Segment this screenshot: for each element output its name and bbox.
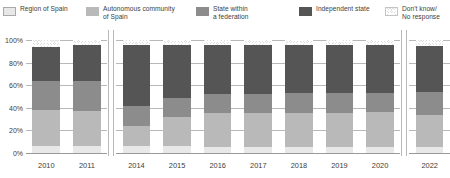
bar-segment [32,40,60,47]
legend-item-2[interactable]: State within a federation [196,5,248,21]
bar-slot-2016[interactable] [197,30,238,156]
stacked-bar[interactable] [285,40,313,153]
legend-item-label: Autonomous community of Spain [103,5,175,21]
bar-slot-2010[interactable] [26,30,67,156]
bar-segment [366,112,394,147]
bar-segment [123,106,151,126]
y-axis-tick-label: 0% [13,150,23,157]
legend-item-label: State within a federation [213,5,248,21]
legend-item-label: Region of Spain [20,5,68,13]
bar-segment [163,45,191,98]
x-axis-tick-label: 2011 [67,161,108,170]
bar-slot-2018[interactable] [279,30,320,156]
bar-segment [32,81,60,110]
bar-segment [163,98,191,117]
legend-swatch-icon [299,7,312,16]
bar-segment [204,113,232,147]
bar-segment [73,40,101,45]
bar-segment [285,147,313,153]
bar-segment [204,40,232,45]
x-axis-tick-label: 2022 [409,161,450,170]
bar-series-container [26,30,450,156]
bar-segment [73,81,101,112]
bar-segment [416,92,444,115]
stacked-bar[interactable] [326,40,354,153]
x-axis-tick-label: 2010 [26,161,67,170]
bar-segment [32,146,60,153]
bar-segment [285,93,313,113]
bar-segment [244,113,272,147]
bar-segment [326,40,354,45]
bar-slot-2014[interactable] [116,30,157,156]
legend-item-label: Don't know/ No response [402,5,440,21]
bar-slot-2015[interactable] [157,30,198,156]
stacked-bar[interactable] [73,40,101,153]
bar-slot-2019[interactable] [319,30,360,156]
bar-segment [32,110,60,146]
bar-segment [416,46,444,92]
bar-segment [163,40,191,45]
legend-item-3[interactable]: Independent state [299,5,370,16]
chart-plot-area: 0%20%40%60%80%100% 201020112014201520162… [0,30,450,178]
bar-segment [123,146,151,153]
bar-segment [416,40,444,46]
legend-swatch-icon [385,7,398,16]
bar-segment [123,126,151,146]
bar-segment [73,111,101,146]
stacked-bar[interactable] [163,40,191,153]
bar-segment [416,115,444,148]
bar-segment [285,113,313,147]
bar-segment [366,45,394,94]
x-axis-labels: 2010201120142015201620172018201920202022 [26,156,450,178]
axis-break-marker [107,30,116,156]
legend-item-label: Independent state [316,5,370,13]
bar-segment [416,147,444,153]
stacked-bar[interactable] [123,40,151,153]
y-axis-tick-label: 20% [9,127,23,134]
bar-segment [285,40,313,45]
y-axis-tick-label: 60% [9,82,23,89]
legend-item-4[interactable]: Don't know/ No response [385,5,440,21]
x-axis-tick-label: 2019 [319,161,360,170]
bar-segment [204,45,232,95]
bar-segment [244,147,272,153]
y-axis-tick-label: 80% [9,59,23,66]
bar-segment [123,40,151,45]
bar-segment [326,93,354,113]
bar-segment [32,47,60,81]
x-axis-tick-label: 2018 [279,161,320,170]
bar-segment [326,147,354,153]
chart-legend: Region of SpainAutonomous community of S… [0,0,450,30]
stacked-bar[interactable] [366,40,394,153]
bar-segment [73,45,101,81]
bar-segment [163,146,191,153]
legend-item-0[interactable]: Region of Spain [3,5,68,16]
bar-segment [73,146,101,153]
legend-swatch-icon [3,7,16,16]
y-axis-tick-label: 100% [5,37,23,44]
y-axis-labels: 0%20%40%60%80%100% [0,30,26,156]
axis-break-marker [400,30,409,156]
bar-slot-2022[interactable] [409,30,450,156]
bar-segment [366,93,394,112]
legend-item-1[interactable]: Autonomous community of Spain [86,5,175,21]
bar-segment [123,45,151,106]
y-axis-tick-label: 40% [9,104,23,111]
bar-slot-2017[interactable] [238,30,279,156]
x-axis-tick-label: 2017 [238,161,279,170]
stacked-bar[interactable] [416,40,444,153]
bar-segment [326,113,354,147]
bar-slot-2020[interactable] [360,30,401,156]
x-axis-tick-label: 2016 [197,161,238,170]
bar-slot-2011[interactable] [67,30,108,156]
bar-segment [204,94,232,113]
bar-segment [244,45,272,95]
bar-segment [366,40,394,45]
x-axis-tick-label: 2014 [116,161,157,170]
x-axis-tick-label: 2020 [360,161,401,170]
stacked-bar[interactable] [32,40,60,153]
bar-segment [366,147,394,153]
bar-segment [326,45,354,94]
stacked-bar[interactable] [204,40,232,153]
stacked-bar[interactable] [244,40,272,153]
